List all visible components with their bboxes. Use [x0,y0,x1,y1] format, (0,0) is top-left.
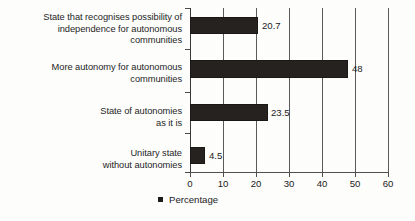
bar-0 [190,17,258,34]
category-label-line: as it is [156,118,182,128]
category-label-3: Unitary state without autonomies [0,148,182,171]
x-axis-tick [388,173,389,177]
gridline-30 [289,8,290,172]
category-label-line: Unitary state [130,148,182,158]
legend-label-percentage: Percentage [169,194,218,205]
category-axis-labels: State that recognises possibility of ind… [0,0,186,172]
category-label-line: communities [130,35,182,45]
gridline-50 [355,8,356,172]
legend-square-icon [158,197,163,202]
legend: Percentage [158,194,218,205]
category-label-line: More autonomy for autonomous [52,62,182,72]
plot-area: 20.7 48 23.5 4.5 [190,8,388,172]
x-axis-tick [223,173,224,177]
x-axis-tick [256,173,257,177]
category-label-line: State of autonomies [100,106,182,116]
x-axis-tick-label-50: 50 [350,178,361,189]
gridline-40 [322,8,323,172]
x-axis-tick-label-30: 30 [284,178,295,189]
gridline-60 [388,8,389,172]
bar-3 [190,147,205,164]
x-axis-tick-label-60: 60 [383,178,394,189]
x-axis-tick [190,173,191,177]
category-label-line: independence for autonomous [58,24,182,34]
category-label-0: State that recognises possibility of ind… [0,12,182,47]
bar-value-3: 4.5 [209,150,222,161]
x-axis-tick-label-0: 0 [187,178,192,189]
x-axis-tick [289,173,290,177]
bar-chart: State that recognises possibility of ind… [0,0,415,221]
category-label-line: without autonomies [103,160,182,170]
bar-value-0: 20.7 [262,20,281,31]
x-axis-tick [322,173,323,177]
category-label-line: State that recognises possibility of [43,12,182,22]
x-axis-tick-label-10: 10 [218,178,229,189]
x-axis-tick [355,173,356,177]
bar-2 [190,104,268,121]
x-axis-tick-label-40: 40 [317,178,328,189]
category-label-2: State of autonomies as it is [0,106,182,129]
bar-value-2: 23.5 [271,107,290,118]
x-axis-tick-label-20: 20 [251,178,262,189]
category-label-1: More autonomy for autonomous communities [0,62,182,85]
bar-1 [190,60,348,78]
bar-value-1: 48 [352,63,363,74]
category-label-line: communities [130,74,182,84]
